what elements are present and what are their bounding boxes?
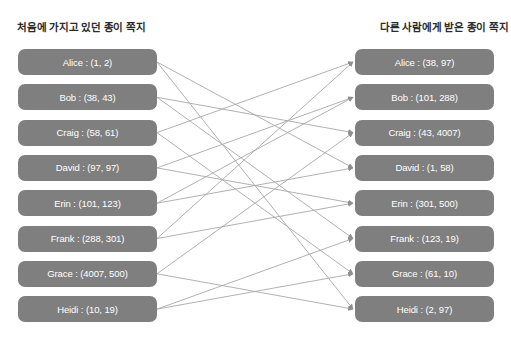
edge-heidi-to-grace [157,274,353,309]
node-label: Erin : (101, 123) [54,198,120,209]
node-label: Craig : (58, 61) [57,127,119,138]
node-label: Grace : (61, 10) [392,268,457,279]
node-label: David : (97, 97) [56,162,119,173]
node-label: Erin : (301, 500) [391,198,457,209]
left-column-title: 처음에 가지고 있던 종이 쪽지 [17,19,145,34]
edge-alice-to-david [157,62,353,168]
right-node-alice[interactable]: Alice : (38, 97) [355,49,494,75]
right-node-erin[interactable]: Erin : (301, 500) [355,190,494,216]
edge-david-to-bob [157,97,353,168]
edge-craig-to-grace [157,133,353,274]
node-label: Alice : (1, 2) [63,57,112,68]
edge-grace-to-heidi [157,274,353,309]
right-node-grace[interactable]: Grace : (61, 10) [355,261,494,287]
edge-craig-to-alice [157,62,353,133]
right-node-bob[interactable]: Bob : (101, 288) [355,84,494,110]
diagram-canvas: 처음에 가지고 있던 종이 쪽지 다른 사람에게 받은 종이 쪽지 Alice … [0,0,511,343]
node-label: David : (1, 58) [395,162,453,173]
left-node-frank[interactable]: Frank : (288, 301) [18,226,157,252]
node-label: Bob : (38, 43) [59,92,115,103]
right-node-craig[interactable]: Craig : (43, 4007) [355,120,494,146]
edge-bob-to-craig [157,97,353,132]
edge-bob-to-frank [157,97,353,238]
edge-heidi-to-frank [157,239,353,310]
edge-frank-to-alice [157,62,353,239]
left-node-erin[interactable]: Erin : (101, 123) [18,190,157,216]
node-label: Heidi : (2, 97) [397,304,453,315]
edge-frank-to-erin [157,203,353,238]
edge-alice-to-heidi [157,62,353,309]
edge-david-to-erin [157,168,353,203]
left-node-craig[interactable]: Craig : (58, 61) [18,120,157,146]
left-node-grace[interactable]: Grace : (4007, 500) [18,261,157,287]
node-label: Frank : (123, 19) [390,233,459,244]
right-node-heidi[interactable]: Heidi : (2, 97) [355,296,494,322]
edge-grace-to-craig [157,133,353,274]
node-label: Craig : (43, 4007) [388,127,460,138]
edge-erin-to-bob [157,97,353,203]
left-node-alice[interactable]: Alice : (1, 2) [18,49,157,75]
node-label: Grace : (4007, 500) [47,268,127,279]
left-node-david[interactable]: David : (97, 97) [18,155,157,181]
left-node-heidi[interactable]: Heidi : (10, 19) [18,296,157,322]
node-label: Frank : (288, 301) [51,233,125,244]
node-label: Heidi : (10, 19) [57,304,118,315]
edge-erin-to-david [157,168,353,203]
right-column-title: 다른 사람에게 받은 종이 쪽지 [380,19,508,34]
right-node-frank[interactable]: Frank : (123, 19) [355,226,494,252]
node-label: Bob : (101, 288) [391,92,458,103]
right-node-david[interactable]: David : (1, 58) [355,155,494,181]
node-label: Alice : (38, 97) [395,57,455,68]
left-node-bob[interactable]: Bob : (38, 43) [18,84,157,110]
